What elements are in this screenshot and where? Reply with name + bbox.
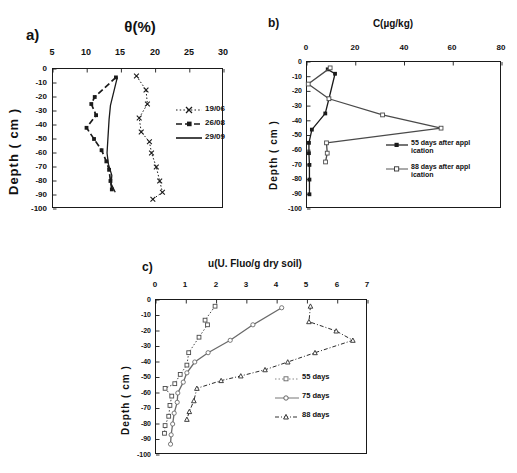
- panel-c-plot-area: [155, 299, 367, 454]
- panel-c-xtick-2: 2: [214, 280, 218, 289]
- panel-c-ytick-8: -80: [130, 420, 151, 427]
- panel-c-letter: c): [142, 260, 153, 274]
- panel-a-letter: a): [26, 26, 39, 43]
- panel-b-xtick-2: 40: [400, 43, 409, 52]
- panel-a-legend-item-0[interactable]: 19/06: [176, 104, 225, 115]
- panel-a-ytick-5: -50: [25, 134, 47, 143]
- panel-b-title: C(µg/kg): [333, 18, 453, 29]
- panel-c-xtick-0: 0: [153, 280, 157, 289]
- panel-c-ytick-3: -30: [130, 342, 151, 349]
- panel-a-legend-item-1[interactable]: 26/08: [176, 118, 225, 129]
- panel-c-legend-key-2: [275, 412, 299, 422]
- panel-a-ytick-8: -80: [25, 176, 47, 185]
- panel-a-legend-label-1: 26/08: [205, 118, 225, 127]
- panel-c: c) u(U. Fluo/g dry soil) 0 1 2 3 4 5 6 7…: [120, 245, 420, 473]
- panel-b-xtick-3: 60: [448, 43, 457, 52]
- panel-b-ytick-10: -100: [280, 205, 302, 212]
- panel-b: b) C(µg/kg) 0 20 40 60 80 0 -10 -20 -30 …: [258, 0, 517, 240]
- panel-a-legend-label-0: 19/06: [205, 104, 225, 113]
- panel-a-xtick-1: 10: [81, 47, 91, 57]
- panel-b-legend-item-1[interactable]: 88 days after appl ication: [386, 163, 496, 179]
- panel-a: a) θ(%) 5 10 15 20 25 30 0 -10 -20 -30 -…: [0, 0, 262, 240]
- panel-a-ytick-9: -90: [25, 190, 47, 199]
- panel-b-legend-item-0[interactable]: 55 days after appl ication: [386, 139, 496, 155]
- panel-b-ytick-7: -70: [280, 161, 302, 168]
- panel-a-ytick-7: -70: [25, 162, 47, 171]
- panel-c-legend-item-2[interactable]: 88 days: [275, 411, 330, 422]
- panel-a-ytick-1: -10: [25, 78, 47, 87]
- panel-a-xtick-0: 5: [49, 47, 54, 57]
- panel-b-legend-label-1: 88 days after appl ication: [411, 163, 489, 179]
- panel-b-plot-area: [306, 61, 501, 208]
- panel-a-ytick-0: 0: [25, 64, 47, 73]
- panel-c-legend-key-0: [275, 374, 299, 384]
- panel-c-ylabel: Depth ( cm ): [120, 365, 131, 435]
- panel-a-legend-key-1: [176, 119, 202, 129]
- panel-c-ytick-5: -50: [130, 373, 151, 380]
- panel-a-title: θ(%): [88, 18, 192, 35]
- panel-c-legend-label-2: 88 days: [302, 411, 330, 420]
- panel-a-ytick-2: -20: [25, 92, 47, 101]
- panel-c-legend-label-1: 75 days: [302, 392, 330, 401]
- panel-c-xtick-6: 6: [335, 280, 339, 289]
- panel-b-ytick-3: -30: [280, 102, 302, 109]
- panel-c-ytick-0: 0: [130, 296, 151, 303]
- panel-b-legend: 55 days after appl ication 88 days after…: [386, 139, 496, 182]
- panel-a-legend-key-2: [176, 133, 202, 143]
- panel-c-ytick-1: -10: [130, 311, 151, 318]
- panel-b-legend-key-1: [386, 164, 408, 174]
- panel-a-legend: 19/06 26/08 29/09: [176, 104, 225, 146]
- panel-b-ytick-4: -40: [280, 117, 302, 124]
- panel-c-xtick-1: 1: [183, 280, 187, 289]
- panel-c-ytick-9: -90: [130, 435, 151, 442]
- panel-a-xtick-3: 20: [150, 47, 160, 57]
- panel-b-ytick-2: -20: [280, 87, 302, 94]
- panel-a-legend-label-2: 29/09: [205, 132, 225, 141]
- panel-c-legend: 55 days 75 days 88 days: [275, 373, 330, 425]
- panel-a-ytick-6: -60: [25, 148, 47, 157]
- panel-c-ytick-6: -60: [130, 389, 151, 396]
- panel-b-letter: b): [268, 16, 279, 30]
- panel-b-xtick-0: 0: [304, 43, 308, 52]
- panel-a-ytick-4: -40: [25, 120, 47, 129]
- panel-c-ytick-2: -20: [130, 327, 151, 334]
- panel-a-ytick-3: -30: [25, 106, 47, 115]
- panel-c-series-canvas: [156, 300, 368, 455]
- panel-c-xtick-7: 7: [365, 280, 369, 289]
- panel-a-xtick-4: 25: [184, 47, 194, 57]
- panel-b-legend-key-0: [386, 140, 408, 150]
- panel-c-ytick-10: -100: [130, 451, 151, 458]
- panel-b-ytick-0: 0: [280, 58, 302, 65]
- panel-a-ytick-10: -100: [25, 204, 47, 213]
- panel-b-xtick-4: 80: [497, 43, 506, 52]
- panel-b-series-canvas: [307, 62, 502, 209]
- panel-c-legend-item-1[interactable]: 75 days: [275, 392, 330, 403]
- panel-a-xtick-5: 30: [218, 47, 228, 57]
- panel-b-ytick-8: -80: [280, 175, 302, 182]
- panel-c-legend-key-1: [275, 393, 299, 403]
- panel-b-legend-label-0: 55 days after appl ication: [411, 139, 489, 155]
- panel-c-xtick-5: 5: [304, 280, 308, 289]
- panel-c-ytick-7: -70: [130, 404, 151, 411]
- panel-c-legend-item-0[interactable]: 55 days: [275, 373, 330, 384]
- panel-b-ytick-5: -50: [280, 131, 302, 138]
- tick-marks: [156, 300, 368, 455]
- panel-c-legend-label-0: 55 days: [302, 373, 330, 382]
- panel-c-xtick-3: 3: [244, 280, 248, 289]
- panel-b-ytick-9: -90: [280, 190, 302, 197]
- panel-b-ylabel: Depth ( cm ): [268, 120, 279, 190]
- panel-a-ylabel: Depth ( cm ): [6, 108, 21, 195]
- panel-a-legend-item-2[interactable]: 29/09: [176, 132, 225, 143]
- panel-b-ytick-1: -10: [280, 73, 302, 80]
- panel-a-legend-key-0: [176, 105, 202, 115]
- panel-b-xtick-1: 20: [351, 43, 360, 52]
- tick-marks: [307, 62, 502, 209]
- panel-c-xtick-4: 4: [274, 280, 278, 289]
- panel-c-title: u(U. Fluo/g dry soil): [175, 258, 335, 269]
- panel-c-ytick-4: -40: [130, 358, 151, 365]
- panel-b-ytick-6: -60: [280, 146, 302, 153]
- panel-a-xtick-2: 15: [115, 47, 125, 57]
